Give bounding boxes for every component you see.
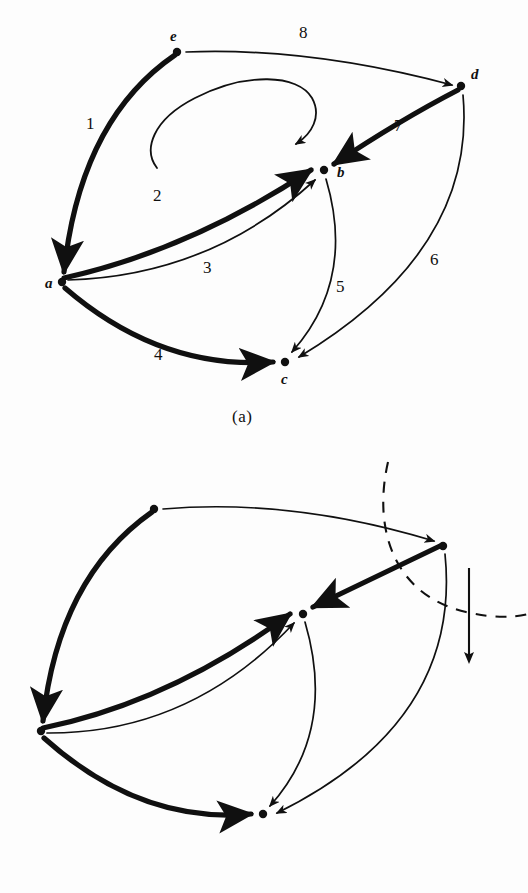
node-dot-a [37, 727, 45, 735]
edge-label-6: 6 [430, 251, 439, 268]
graph-b-canvas [0, 446, 528, 893]
edge-label-8: 8 [299, 24, 308, 41]
node-dot-d [439, 542, 447, 550]
edge-8-path [186, 51, 452, 85]
node-dot-c [281, 358, 289, 366]
edge-label-5: 5 [336, 278, 345, 295]
edge-5-path [292, 179, 336, 352]
node-dot-a [58, 278, 66, 286]
figure-page: a b c d e 1 2 3 4 5 6 7 8 (a) [0, 0, 528, 893]
node-dot-b [320, 166, 328, 174]
dashed-arc [383, 462, 528, 617]
edge-4-path [44, 738, 251, 815]
node-dot-c [259, 810, 267, 818]
graph-panel-a: a b c d e 1 2 3 4 5 6 7 8 (a) [0, 0, 528, 446]
graph-a-canvas [0, 0, 528, 446]
graph-panel-b: a b c d e 1 2 3 4 5 6 7 8 (b) [0, 446, 528, 893]
edge-8-path [163, 507, 434, 541]
node-label-c: c [281, 372, 288, 387]
edge-label-4: 4 [154, 346, 163, 363]
edge-7-path [313, 546, 440, 607]
edge-4-path [65, 288, 273, 363]
node-label-b: b [337, 165, 345, 180]
edge-label-1: 1 [86, 115, 95, 132]
edge-1-path [43, 512, 152, 721]
node-label-d: d [471, 67, 479, 82]
edge-label-7: 7 [394, 117, 403, 134]
node-label-a: a [45, 276, 53, 291]
edge-label-3: 3 [203, 259, 212, 276]
edge-5-path [270, 622, 315, 806]
node-dot-e [150, 505, 158, 513]
node-dot-b [299, 610, 307, 618]
node-label-e: e [170, 29, 177, 44]
panel-caption-a: (a) [232, 408, 252, 425]
node-dot-d [457, 82, 465, 90]
edge-label-2: 2 [153, 187, 162, 204]
edge-2-path [64, 170, 311, 278]
rotation-loop-arrow [151, 79, 316, 168]
edge-6-path [277, 554, 446, 813]
edge-1-path [64, 55, 175, 272]
node-dot-e [173, 48, 181, 56]
